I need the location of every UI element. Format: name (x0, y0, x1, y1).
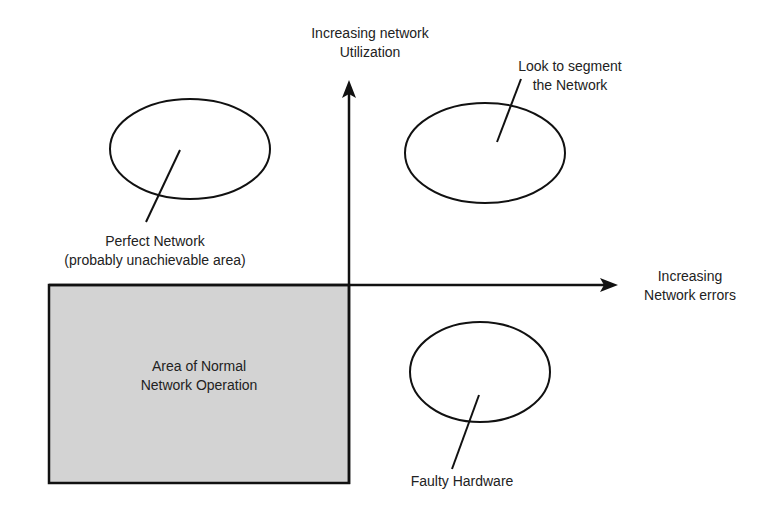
y-axis-label-line1: Increasing network (270, 24, 470, 43)
perfect-network-ellipse (110, 99, 270, 199)
normal-label-line2: Network Operation (99, 376, 299, 395)
perfect-network-label: Perfect Network (probably unachievable a… (40, 232, 270, 270)
x-axis-label-line2: Network errors (615, 286, 764, 305)
normal-operation-label: Area of Normal Network Operation (99, 357, 299, 395)
segment-label-line1: Look to segment (495, 57, 645, 76)
y-axis-label: Increasing network Utilization (270, 24, 470, 62)
normal-label-line1: Area of Normal (99, 357, 299, 376)
x-axis-label: Increasing Network errors (615, 267, 764, 305)
y-axis-label-line2: Utilization (270, 43, 470, 62)
faulty-hardware-pointer (452, 395, 479, 469)
perfect-network-pointer (146, 150, 180, 222)
perfect-label-line2: (probably unachievable area) (40, 251, 270, 270)
faulty-label-text: Faulty Hardware (392, 472, 532, 491)
faulty-hardware-label: Faulty Hardware (392, 472, 532, 491)
segment-network-ellipse (405, 103, 565, 203)
perfect-label-line1: Perfect Network (40, 232, 270, 251)
x-axis-label-line1: Increasing (615, 267, 764, 286)
segment-label-line2: the Network (495, 76, 645, 95)
faulty-hardware-ellipse (410, 322, 550, 422)
segment-network-label: Look to segment the Network (495, 57, 645, 95)
